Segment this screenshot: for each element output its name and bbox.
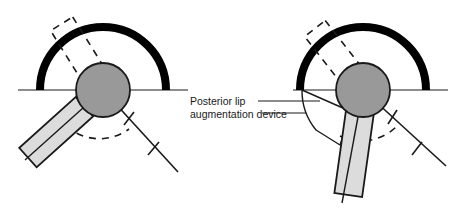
femoral-head-right <box>336 63 390 117</box>
femoral-head-left <box>76 63 130 117</box>
figure-root: Posterior lip augmentation device <box>0 0 476 219</box>
annotation-label-line-1: Posterior lip <box>190 95 246 107</box>
annotation-label-line-2: augmentation device <box>190 108 287 120</box>
hip-arthroplasty-diagram: Posterior lip augmentation device <box>0 0 476 219</box>
